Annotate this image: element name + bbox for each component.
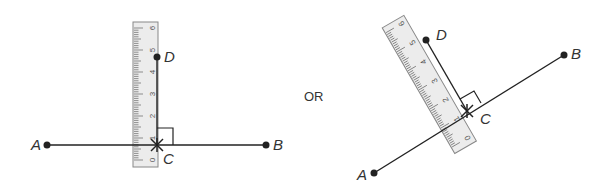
perpendicular-construction-diagram: 0123456 A B C D OR 0123456 <box>0 0 606 193</box>
right-angle-marker <box>460 91 481 103</box>
or-separator: OR <box>304 89 324 104</box>
point-d <box>423 37 430 44</box>
label-d: D <box>164 48 175 65</box>
label-c: C <box>163 150 174 167</box>
svg-text:2: 2 <box>148 113 157 118</box>
label-b: B <box>571 45 581 62</box>
point-a <box>44 142 51 149</box>
label-d: D <box>436 26 447 43</box>
svg-text:5: 5 <box>148 47 157 52</box>
right-ruler: 0123456 <box>382 15 476 153</box>
point-b <box>263 142 270 149</box>
svg-text:4: 4 <box>148 69 157 74</box>
point-d <box>154 54 161 61</box>
right-figure: 0123456 A B C D <box>356 15 581 183</box>
label-c: C <box>480 110 491 127</box>
svg-text:6: 6 <box>148 25 157 30</box>
label-a: A <box>356 166 367 183</box>
svg-text:3: 3 <box>148 91 157 96</box>
label-b: B <box>273 136 283 153</box>
label-a: A <box>30 136 41 153</box>
left-figure: 0123456 A B C D <box>30 22 283 167</box>
point-a <box>371 170 378 177</box>
point-c-cross <box>461 104 473 118</box>
point-b <box>561 52 568 59</box>
svg-text:0: 0 <box>148 157 157 162</box>
